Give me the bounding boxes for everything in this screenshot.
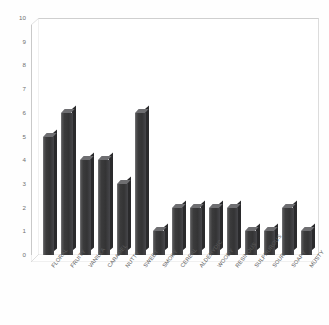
- bar-front-face: [282, 208, 293, 255]
- bar: [61, 113, 71, 255]
- bar-front-face: [135, 113, 146, 255]
- y-axis-tick: 10: [19, 15, 26, 21]
- y-axis-tick: 0: [23, 252, 26, 258]
- bar: [135, 113, 145, 255]
- y-axis-tick: 3: [23, 181, 26, 187]
- y-axis-tick: 7: [23, 86, 26, 92]
- bar-chart: 109876543210 FLORALFRUITYVANILLACARAMELN…: [0, 0, 329, 325]
- bar: [282, 208, 292, 255]
- bar-front-face: [80, 160, 91, 255]
- bar: [80, 160, 90, 255]
- bar-body: [43, 137, 53, 256]
- y-axis-tick: 5: [23, 133, 26, 139]
- bar-body: [80, 160, 90, 255]
- bars-container: [31, 18, 319, 262]
- x-axis: FLORALFRUITYVANILLACARAMELNUTTYSWEETSMOK…: [31, 262, 319, 325]
- bar-body: [135, 113, 145, 255]
- bar: [43, 137, 53, 256]
- bar-front-face: [43, 137, 54, 256]
- y-axis: 109876543210: [8, 18, 28, 262]
- y-axis-tick: 1: [23, 228, 26, 234]
- bar-front-face: [98, 160, 109, 255]
- bar-body: [282, 208, 292, 255]
- bar: [98, 160, 108, 255]
- y-axis-tick: 8: [23, 62, 26, 68]
- y-axis-tick: 6: [23, 110, 26, 116]
- bar-body: [61, 113, 71, 255]
- y-axis-tick: 4: [23, 157, 26, 163]
- y-axis-tick: 2: [23, 204, 26, 210]
- bar-body: [98, 160, 108, 255]
- bar-front-face: [61, 113, 72, 255]
- y-axis-tick: 9: [23, 39, 26, 45]
